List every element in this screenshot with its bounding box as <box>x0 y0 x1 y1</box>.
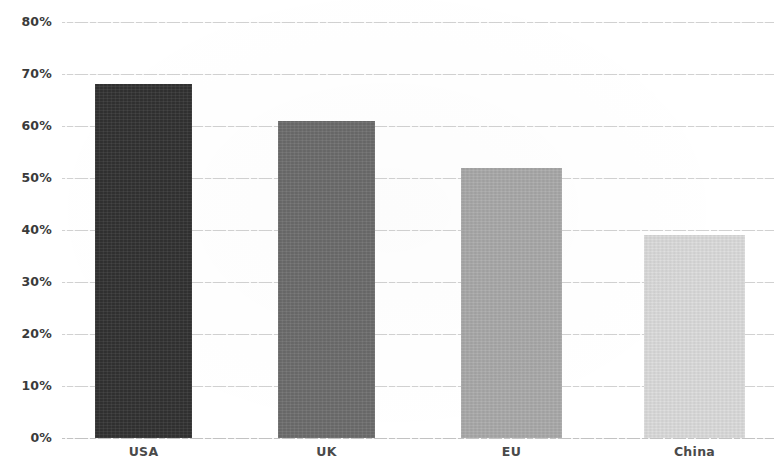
x-axis-label-china: China <box>644 446 745 459</box>
bar-uk-fill <box>278 121 375 438</box>
y-axis-tick-40: 40% <box>0 224 52 237</box>
bar-uk[interactable] <box>278 121 375 438</box>
y-axis-tick-30: 30% <box>0 276 52 289</box>
y-axis-tick-50: 50% <box>0 172 52 185</box>
gridline-baseline-0 <box>62 438 774 439</box>
x-axis-label-uk: UK <box>278 446 375 459</box>
y-axis-tick-80: 80% <box>0 16 52 29</box>
y-axis-tick-70: 70% <box>0 68 52 81</box>
bar-usa-fill <box>95 84 192 438</box>
gridline-70 <box>62 74 774 75</box>
x-axis-label-eu: EU <box>461 446 562 459</box>
y-axis-tick-0: 0% <box>0 432 52 445</box>
bar-eu-fill <box>461 168 562 438</box>
x-axis-label-usa: USA <box>95 446 192 459</box>
plot-area: 80% 70% 60% 50% 40% 30% 20% 10% 0% USA U… <box>0 0 774 467</box>
bar-china-fill <box>644 235 745 438</box>
gridline-80 <box>62 22 774 23</box>
bar-usa[interactable] <box>95 84 192 438</box>
y-axis-tick-60: 60% <box>0 120 52 133</box>
y-axis-tick-10: 10% <box>0 380 52 393</box>
bar-china[interactable] <box>644 235 745 438</box>
y-axis-tick-20: 20% <box>0 328 52 341</box>
bar-chart: 80% 70% 60% 50% 40% 30% 20% 10% 0% USA U… <box>0 0 774 467</box>
bar-eu[interactable] <box>461 168 562 438</box>
